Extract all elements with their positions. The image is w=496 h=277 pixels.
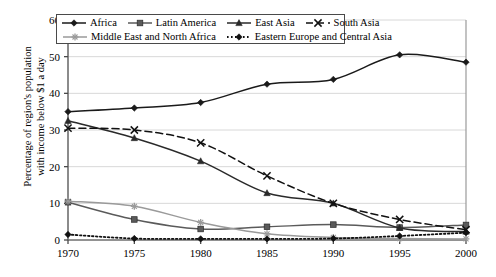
data-point-latin-america: [264, 224, 270, 230]
data-point-eastern-europe-and-central-asia: [65, 231, 71, 237]
legend-key-latin-america: [127, 17, 153, 29]
legend-label-africa: Africa: [90, 17, 117, 29]
x-tick-label: 1975: [123, 247, 146, 259]
series-line-south-asia: [68, 128, 466, 230]
legend-item-eastern-europe-central-asia: Eastern Europe and Central Asia: [226, 31, 392, 43]
x-tick-label: 1980: [190, 247, 213, 259]
data-point-africa: [197, 99, 203, 105]
legend: Africa Latin America East Asia South Asi…: [56, 14, 345, 44]
axis-ticks: [64, 20, 466, 244]
legend-marker: [71, 20, 77, 26]
legend-label-east-asia: East Asia: [255, 17, 294, 29]
x-tick-label: 1985: [256, 247, 279, 259]
data-point-africa: [131, 105, 137, 111]
legend-key-south-asia: [305, 17, 331, 29]
series-africa: [65, 52, 469, 115]
x-tick-label: 1970: [57, 247, 80, 259]
legend-key-eastern-europe-central-asia: [226, 31, 252, 43]
legend-item-south-asia: South Asia: [305, 17, 380, 29]
y-tick-label: 0: [55, 234, 61, 246]
data-point-eastern-europe-and-central-asia: [264, 236, 270, 242]
data-point-latin-america: [132, 217, 138, 223]
legend-key-east-asia: [226, 17, 252, 29]
legend-label-eastern-europe-central-asia: Eastern Europe and Central Asia: [255, 31, 392, 43]
legend-key-middle-east-north-africa: [62, 31, 88, 43]
data-point-latin-america: [331, 222, 337, 228]
y-tick-labels: 0102030405060: [49, 14, 61, 246]
y-tick-label: 50: [49, 51, 61, 63]
y-tick-label: 10: [49, 197, 61, 209]
data-point-latin-america: [198, 226, 204, 232]
legend-label-south-asia: South Asia: [334, 17, 380, 29]
y-tick-label: 40: [49, 87, 61, 99]
legend-key-africa: [61, 17, 87, 29]
legend-item-latin-america: Latin America: [127, 17, 216, 29]
y-tick-label: 30: [49, 124, 61, 136]
data-point-africa: [65, 108, 71, 114]
x-tick-label: 1990: [322, 247, 345, 259]
data-point-eastern-europe-and-central-asia: [197, 236, 203, 242]
x-tick-label: 1995: [389, 247, 412, 259]
data-point-eastern-europe-and-central-asia: [463, 229, 469, 235]
x-tick-labels: 1970197519801985199019952000: [57, 247, 478, 259]
legend-item-africa: Africa: [61, 17, 117, 29]
chart-container: Percentage of region's population with i…: [0, 0, 496, 277]
legend-label-middle-east-north-africa: Middle East and North Africa: [91, 31, 216, 43]
x-tick-label: 2000: [455, 247, 478, 259]
y-tick-label: 20: [49, 161, 61, 173]
data-point-africa: [330, 76, 336, 82]
data-series-layer: [64, 52, 469, 243]
series-latin-america: [65, 199, 469, 231]
data-point-east-asia: [65, 117, 71, 123]
legend-item-middle-east-north-africa: Middle East and North Africa: [62, 31, 216, 43]
legend-item-east-asia: East Asia: [226, 17, 294, 29]
data-point-africa: [264, 81, 270, 87]
legend-marker: [236, 34, 242, 40]
legend-marker: [137, 20, 143, 26]
data-point-africa: [463, 59, 469, 65]
legend-label-latin-america: Latin America: [156, 17, 216, 29]
